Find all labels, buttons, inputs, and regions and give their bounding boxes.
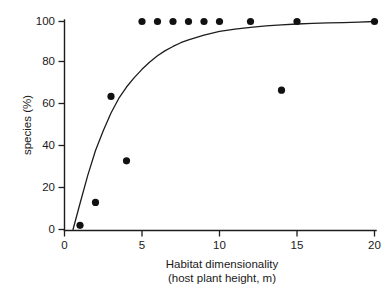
fitted-curve bbox=[73, 22, 374, 230]
y-axis-tick-labels: 0 20 40 60 80 100 bbox=[36, 15, 55, 235]
data-point bbox=[92, 199, 99, 206]
x-ticklabel-0: 0 bbox=[61, 239, 67, 251]
data-point bbox=[76, 222, 83, 229]
y-ticklabel-80: 80 bbox=[42, 55, 55, 67]
data-point bbox=[371, 18, 378, 25]
data-point bbox=[138, 18, 145, 25]
data-point bbox=[278, 87, 285, 94]
data-point bbox=[247, 18, 254, 25]
data-point bbox=[123, 157, 130, 164]
data-point bbox=[154, 18, 161, 25]
data-point bbox=[200, 18, 207, 25]
x-axis-ticks bbox=[65, 231, 375, 237]
y-axis-ticks bbox=[59, 22, 65, 230]
x-axis-title-line1: Habitat dimensionality bbox=[166, 258, 279, 270]
data-point bbox=[185, 18, 192, 25]
scatter-plot: 0 20 40 60 80 100 0 5 10 15 20 Habit bbox=[0, 0, 388, 294]
y-ticklabel-0: 0 bbox=[49, 223, 55, 235]
x-axis-tick-labels: 0 5 10 15 20 bbox=[61, 239, 381, 251]
data-point bbox=[169, 18, 176, 25]
x-ticklabel-20: 20 bbox=[368, 239, 381, 251]
y-ticklabel-60: 60 bbox=[42, 97, 55, 109]
data-points bbox=[76, 18, 378, 229]
x-ticklabel-15: 15 bbox=[291, 239, 304, 251]
y-axis-title-line2: species (%) bbox=[21, 95, 33, 155]
chart-figure: 0 20 40 60 80 100 0 5 10 15 20 Habit bbox=[0, 0, 388, 294]
x-ticklabel-10: 10 bbox=[213, 239, 226, 251]
x-ticklabel-5: 5 bbox=[139, 239, 145, 251]
y-ticklabel-20: 20 bbox=[42, 181, 55, 193]
y-ticklabel-40: 40 bbox=[42, 139, 55, 151]
data-point bbox=[216, 18, 223, 25]
y-ticklabel-100: 100 bbox=[36, 15, 55, 27]
data-point bbox=[293, 18, 300, 25]
data-point bbox=[107, 93, 114, 100]
x-axis-title-line2: (host plant height, m) bbox=[168, 272, 276, 284]
